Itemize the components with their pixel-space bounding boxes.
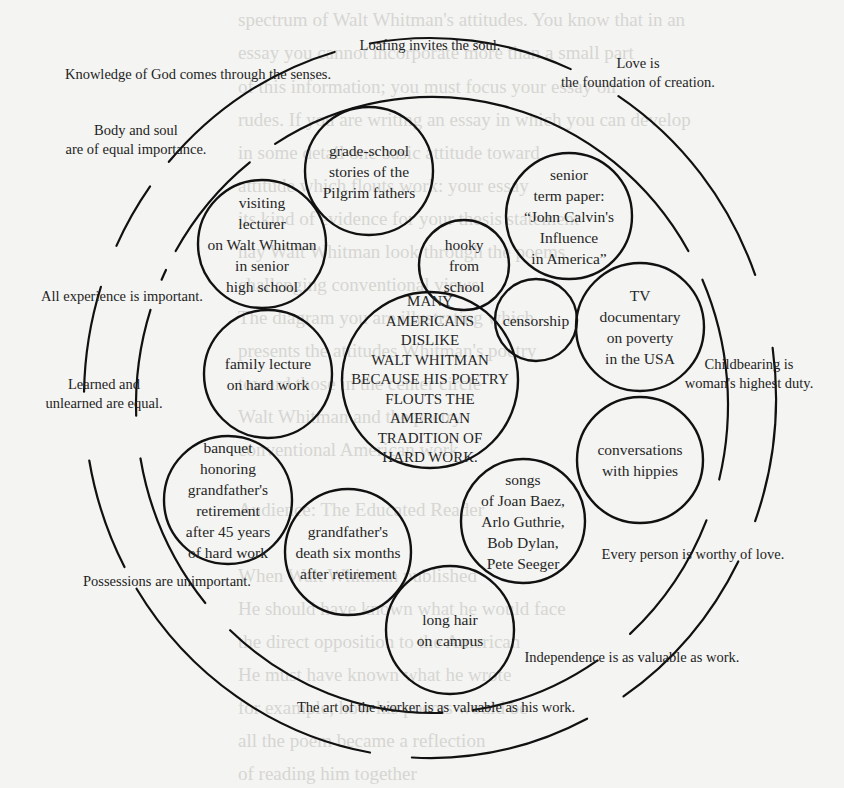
text-line: long hair bbox=[417, 609, 484, 630]
value-label-body-soul: Body and soulare of equal importance. bbox=[66, 121, 207, 159]
text-line: WALT WHITMAN bbox=[351, 351, 509, 371]
text-line: AMERICANS bbox=[351, 312, 509, 332]
tv-documentary-text: TVdocumentaryon povertyin the USA bbox=[600, 285, 681, 369]
text-line: of hard work bbox=[186, 542, 270, 563]
text-line: on poverty bbox=[600, 327, 681, 348]
value-label-independence: Independence is as valuable as work. bbox=[524, 648, 739, 667]
text-line: Knowledge of God comes through the sense… bbox=[65, 65, 331, 84]
text-line: All experience is important. bbox=[41, 287, 203, 306]
outer-ring-arc bbox=[89, 461, 124, 567]
text-line: TRADITION OF bbox=[351, 429, 509, 449]
banquet-text: banquethonoringgrandfather'sretirementaf… bbox=[186, 437, 270, 563]
text-line: visiting bbox=[207, 192, 316, 213]
inner-ring-arc bbox=[630, 520, 706, 634]
text-line: songs bbox=[481, 469, 565, 490]
text-line: unlearned are equal. bbox=[45, 394, 162, 413]
text-line: retirement bbox=[186, 500, 270, 521]
text-line: on hard work bbox=[225, 374, 312, 395]
text-line: after 45 years bbox=[186, 521, 270, 542]
conversations-hippies-text: conversationswith hippies bbox=[597, 439, 682, 481]
text-line: banquet bbox=[186, 437, 270, 458]
text-line: from bbox=[444, 255, 484, 276]
text-line: after retirement bbox=[295, 563, 400, 584]
text-line: Pilgrim fathers bbox=[323, 182, 416, 203]
text-line: Loafing invites the soul. bbox=[360, 36, 501, 55]
text-line: documentary bbox=[600, 306, 681, 327]
text-line: Influence bbox=[524, 227, 614, 248]
text-line: Possessions are unimportant. bbox=[83, 572, 251, 591]
text-line: lecturer bbox=[207, 213, 316, 234]
value-label-love-creation: Love isthe foundation of creation. bbox=[561, 54, 715, 92]
value-label-knowledge-god: Knowledge of God comes through the sense… bbox=[65, 65, 331, 84]
text-line: BECAUSE HIS POETRY bbox=[351, 370, 509, 390]
text-line: honoring bbox=[186, 458, 270, 479]
grade-school-text: grade-schoolstories of thePilgrim father… bbox=[323, 140, 416, 203]
text-line: FLOUTS THE bbox=[351, 390, 509, 410]
outer-ring-arc bbox=[623, 561, 738, 696]
text-line: Bob Dylan, bbox=[481, 532, 565, 553]
family-lecture-text: family lectureon hard work bbox=[225, 353, 312, 395]
thesis-text: MANYAMERICANSDISLIKEWALT WHITMANBECAUSE … bbox=[351, 292, 509, 468]
text-line: school bbox=[444, 276, 484, 297]
text-line: in senior bbox=[207, 255, 316, 276]
text-line: grandfather's bbox=[295, 521, 400, 542]
text-line: on Walt Whitman bbox=[207, 234, 316, 255]
value-label-loafing: Loafing invites the soul. bbox=[360, 36, 501, 55]
outer-ring-arc bbox=[412, 719, 587, 758]
grandfather-death-text: grandfather'sdeath six monthsafter retir… bbox=[295, 521, 400, 584]
visiting-lecturer-text: visitinglectureron Walt Whitmanin senior… bbox=[207, 192, 316, 297]
value-label-possessions: Possessions are unimportant. bbox=[83, 572, 251, 591]
text-line: hooky bbox=[444, 234, 484, 255]
text-line: term paper: bbox=[524, 185, 614, 206]
text-line: Childbearing is bbox=[685, 355, 814, 374]
senior-term-paper-text: seniorterm paper:“John Calvin'sInfluence… bbox=[524, 164, 614, 269]
text-line: DISLIKE bbox=[351, 331, 509, 351]
songs-text: songsof Joan Baez,Arlo Guthrie,Bob Dylan… bbox=[481, 469, 565, 574]
text-line: “John Calvin's bbox=[524, 206, 614, 227]
text-line: TV bbox=[600, 285, 681, 306]
text-line: of Joan Baez, bbox=[481, 490, 565, 511]
text-line: Body and soul bbox=[66, 121, 207, 140]
outer-ring-arc bbox=[116, 186, 150, 245]
value-label-all-experience: All experience is important. bbox=[41, 287, 203, 306]
text-line: stories of the bbox=[323, 161, 416, 182]
text-line: censorship bbox=[503, 310, 569, 331]
text-line: Every person is worthy of love. bbox=[602, 545, 785, 564]
text-line: are of equal importance. bbox=[66, 140, 207, 159]
inner-ring-arc bbox=[162, 270, 166, 280]
text-line: in the USA bbox=[600, 348, 681, 369]
long-hair-text: long hairon campus bbox=[417, 609, 484, 651]
hooky-text: hookyfromschool bbox=[444, 234, 484, 297]
text-line: woman's highest duty. bbox=[685, 374, 814, 393]
value-label-learned: Learned andunlearned are equal. bbox=[45, 375, 162, 413]
text-line: grandfather's bbox=[186, 479, 270, 500]
text-line: grade-school bbox=[323, 140, 416, 161]
text-line: on campus bbox=[417, 630, 484, 651]
text-line: senior bbox=[524, 164, 614, 185]
text-line: family lecture bbox=[225, 353, 312, 374]
censorship-text: censorship bbox=[503, 310, 569, 331]
text-line: Pete Seeger bbox=[481, 553, 565, 574]
value-label-childbearing: Childbearing iswoman's highest duty. bbox=[685, 355, 814, 393]
text-line: with hippies bbox=[597, 460, 682, 481]
value-label-art-worker: The art of the worker is as valuable as … bbox=[297, 698, 575, 717]
text-line: in America” bbox=[524, 248, 614, 269]
text-line: The art of the worker is as valuable as … bbox=[297, 698, 575, 717]
text-line: death six months bbox=[295, 542, 400, 563]
text-line: Love is bbox=[561, 54, 715, 73]
text-line: high school bbox=[207, 276, 316, 297]
text-line: HARD WORK. bbox=[351, 448, 509, 468]
text-line: Independence is as valuable as work. bbox=[524, 648, 739, 667]
text-line: AMERICAN bbox=[351, 409, 509, 429]
value-label-worthy-love: Every person is worthy of love. bbox=[602, 545, 785, 564]
text-line: the foundation of creation. bbox=[561, 73, 715, 92]
text-line: Learned and bbox=[45, 375, 162, 394]
text-line: conversations bbox=[597, 439, 682, 460]
text-line: Arlo Guthrie, bbox=[481, 511, 565, 532]
text-line: MANY bbox=[351, 292, 509, 312]
